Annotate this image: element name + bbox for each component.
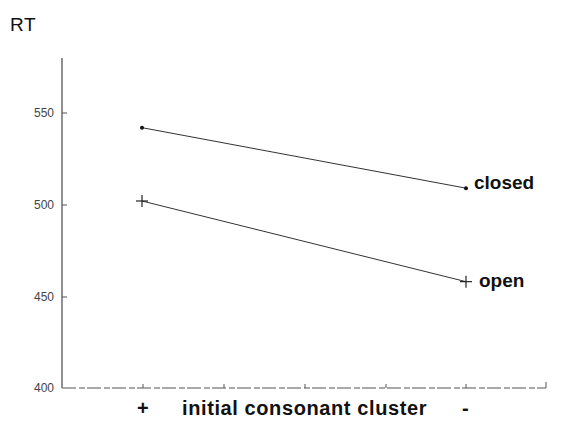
closed-line bbox=[142, 128, 466, 189]
x-category-plus: + bbox=[137, 397, 149, 420]
series-closed bbox=[140, 126, 468, 191]
y-tick-label-400: 400 bbox=[14, 381, 54, 395]
y-tick-label-550: 550 bbox=[14, 106, 54, 120]
open-plus-marker bbox=[136, 195, 148, 207]
chart-canvas bbox=[0, 0, 576, 439]
closed-dot-marker bbox=[464, 186, 468, 190]
x-category-minus: - bbox=[462, 397, 469, 420]
series-open bbox=[136, 195, 472, 288]
open-plus-marker bbox=[460, 276, 472, 288]
y-tick-label-500: 500 bbox=[14, 198, 54, 212]
series-label-open: open bbox=[479, 270, 524, 292]
y-tick-label-450: 450 bbox=[14, 290, 54, 304]
y-axis-label: RT bbox=[10, 14, 36, 36]
open-line bbox=[142, 201, 466, 282]
closed-dot-marker bbox=[140, 126, 144, 130]
series-label-closed: closed bbox=[474, 172, 534, 194]
x-axis-label: initial consonant cluster bbox=[182, 397, 427, 420]
